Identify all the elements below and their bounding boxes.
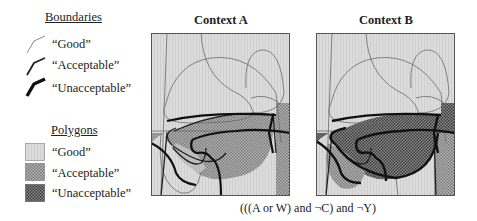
formula-caption: (((A or W) and ¬C) and ¬Y)	[240, 201, 376, 216]
boundary-unacceptable-label: “Unacceptable”	[52, 81, 131, 96]
polygon-acceptable-label: “Acceptable”	[52, 166, 119, 181]
boundary-good-label: “Good”	[52, 37, 91, 52]
boundary-acceptable-label: “Acceptable”	[52, 58, 119, 73]
context-b-map	[316, 33, 455, 196]
polygons-heading: Polygons	[51, 123, 98, 138]
good-boundary-line-icon	[25, 34, 47, 54]
acceptable-boundary-line-icon	[25, 56, 47, 76]
unacceptable-boundary-line-icon	[25, 77, 47, 97]
polygon-good-label: “Good”	[52, 145, 91, 160]
context-a-map	[151, 33, 290, 196]
boundaries-heading: Boundaries	[45, 10, 102, 25]
good-polygon-swatch-icon	[25, 143, 45, 161]
acceptable-polygon-swatch-icon	[25, 163, 45, 181]
polygon-unacceptable-label: “Unacceptable”	[52, 186, 131, 201]
context-a-title: Context A	[194, 13, 248, 28]
context-b-title: Context B	[359, 13, 413, 28]
unacceptable-polygon-swatch-icon	[25, 184, 45, 202]
